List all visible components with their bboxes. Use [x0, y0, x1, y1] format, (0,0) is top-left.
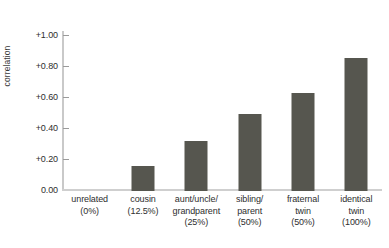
- bar: [345, 58, 368, 191]
- bar: [238, 114, 261, 192]
- y-tick-label: +0.60: [0, 92, 58, 102]
- y-tick-label: +0.40: [0, 123, 58, 133]
- y-axis-tick-labels: 0.00+0.20+0.40+0.60+0.80+1.00: [0, 0, 58, 248]
- x-axis-label-line: twin: [324, 206, 389, 218]
- y-tick-mark: [63, 128, 69, 129]
- bar-group: [330, 0, 383, 191]
- correlation-bar-chart: correlation 0.00+0.20+0.40+0.60+0.80+1.0…: [0, 0, 389, 248]
- bars-layer: [63, 0, 383, 191]
- y-tick-label: +1.00: [0, 30, 58, 40]
- y-tick-mark: [63, 66, 69, 67]
- y-tick-label: 0.00: [0, 185, 58, 195]
- bar-group: [276, 0, 329, 191]
- y-tick-mark: [63, 97, 69, 98]
- bar-group: [223, 0, 276, 191]
- bar: [291, 93, 314, 191]
- y-tick-mark: [63, 159, 69, 160]
- bar: [185, 141, 208, 191]
- y-tick-label: +0.80: [0, 61, 58, 71]
- y-tick-mark: [63, 35, 69, 36]
- y-tick-label: +0.20: [0, 154, 58, 164]
- bar-group: [116, 0, 169, 191]
- x-axis-category-labels: unrelated(0%)cousin(12.5%)aunt/uncle/gra…: [63, 194, 383, 248]
- x-axis-label-line: (100%): [324, 217, 389, 229]
- x-axis-label-line: identical: [324, 194, 389, 206]
- x-axis-label: identicaltwin(100%): [324, 194, 389, 229]
- bar-group: [170, 0, 223, 191]
- bar-group: [63, 0, 116, 191]
- bar: [131, 166, 154, 191]
